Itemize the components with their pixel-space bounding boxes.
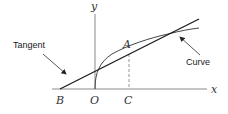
tangent-callout-label: Tangent: [13, 40, 46, 50]
tangent-diagram: y x B O C A Tangent Curve: [0, 0, 228, 114]
y-axis-label: y: [90, 0, 98, 13]
point-a-label: A: [122, 38, 131, 51]
curve-callout-label: Curve: [186, 57, 210, 67]
x-axis-label: x: [211, 83, 218, 96]
tangent-line: [60, 19, 199, 89]
curve-callout-arrow: [180, 37, 200, 55]
origin-label: O: [90, 94, 99, 107]
tangent-callout-arrow: [43, 54, 66, 74]
point-b-label: B: [55, 94, 64, 107]
curve: [95, 28, 199, 89]
point-c-label: C: [124, 94, 133, 107]
